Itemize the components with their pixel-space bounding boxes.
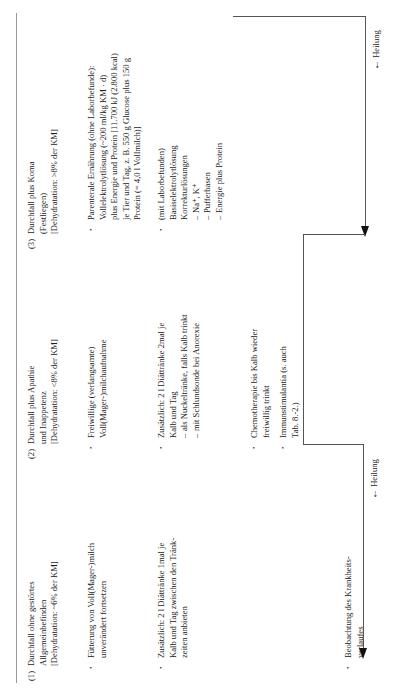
c1-b2-line-1: Zusätzlich: 2 l Diättränke 1mal je <box>156 451 168 658</box>
column-2-heading-line-1: Durchfall plus Apathie <box>26 261 38 444</box>
c2-b4-line-1: Immunstimulantia (s. auch <box>278 235 290 438</box>
c1-b1-line-2: unverändert fortsetzen <box>98 451 110 658</box>
dash-marker: – <box>191 213 203 220</box>
column-3-heading-line-1: Durchfall plus Koma <box>26 13 38 234</box>
c2-b3-line-2: freiwillig trinkt <box>261 235 273 438</box>
column-2-heading: (2) Durchfall plus Apathie und Inappeten… <box>26 261 61 459</box>
c2-b4-line-2: Tab. 8.-2.) <box>290 235 302 438</box>
c3-b1-line-2: Vollelektrolytlösung (~200 ml/kg KM · d) <box>98 0 110 220</box>
flow-line-left-vertical <box>303 234 365 235</box>
c3-b2-sub-1: – Na⁺, K⁺ <box>191 0 203 220</box>
flow-label-heilung-2-text: Heilung <box>369 459 379 487</box>
dash-marker: – <box>179 431 191 438</box>
column-1-heading-line-1: Durchfall ohne gestörtes <box>26 471 38 666</box>
column-2-bullet-2: • Zusätzlich: 2 l Diättränke 2mal je Kal… <box>156 235 202 449</box>
c3-b2-line-1: (mit Laborbefunden) <box>156 0 168 220</box>
flow-label-heilung-1-text: Heilung <box>371 30 381 58</box>
left-arrow-icon: ← <box>368 489 379 499</box>
bullet-marker: • <box>343 658 355 669</box>
column-3-heading-line-3: [Dehydratation: >8% der KM] <box>49 13 61 234</box>
dash-marker: – <box>214 213 226 220</box>
bullet-marker: • <box>86 438 98 449</box>
column-2-bullet-4: • Immunstimulantia (s. auch Tab. 8.-2.) <box>278 235 301 449</box>
column-2-number: (2) <box>26 444 61 459</box>
column-headings: (1) Durchfall ohne gestörtes Allgemeinbe… <box>26 13 61 681</box>
flow-label-heilung-2: ← Heilung <box>368 459 380 499</box>
c2-b2-sub-2: – mit Schlundsonde bei Anorexie <box>191 235 203 438</box>
c3-b2-sub-3-text: Energie plus Protein <box>214 143 226 213</box>
column-1-bullet-2: • Zusätzlich: 2 l Diättränke 1mal je Kal… <box>156 451 191 669</box>
dash-marker: – <box>202 213 214 220</box>
column-1-heading-line-3: [Dehydratation: ~6% der KM] <box>49 471 61 666</box>
c2-b3-line-1: Chemotherapie bis Kalb wieder <box>249 235 261 438</box>
c2-b2-line-2: Kalb und Tag <box>168 235 180 438</box>
column-1-heading-line-2: Allgemeinbefinden <box>38 471 50 666</box>
c1-b3-line-2: verlaufes <box>355 451 367 658</box>
bullet-marker: • <box>156 438 168 449</box>
column-2: (2) Durchfall plus Apathie und Inappeten… <box>26 249 61 459</box>
dash-marker: – <box>191 431 203 438</box>
flow-label-heilung-1: ← Heilung <box>370 30 382 70</box>
bullet-marker: • <box>278 438 290 449</box>
c1-b2-line-2: Kalb und Tag zwischen den Tränk- <box>168 451 180 658</box>
column-1: (1) Durchfall ohne gestörtes Allgemeinbe… <box>26 459 61 681</box>
flow-line-mid-vertical <box>303 444 363 445</box>
bullet-marker: • <box>86 220 98 231</box>
c2-b1-line-2: Voll(Mager-)milchaufnahme <box>98 235 110 438</box>
column-3-heading: (3) Durchfall plus Koma (Festliegen) [De… <box>26 13 61 249</box>
column-1-bullet-1: • Fütterung von Voll(Mager-)milch unverä… <box>86 451 109 669</box>
c3-b1-line-4: je Tier und Tag, z. B. 550 g Glucose plu… <box>121 0 133 220</box>
c2-b1-line-1: Freiwillige (verlangsamte) <box>86 235 98 438</box>
rotated-page-wrapper: (1) Durchfall ohne gestörtes Allgemeinbe… <box>0 0 398 695</box>
column-3-bullet-1: • Parenterale Ernährung (ohne Laborbefun… <box>86 0 144 231</box>
bullet-marker: • <box>249 438 261 449</box>
header-rule <box>16 13 17 683</box>
column-2-heading-line-3: [Dehydratation: <8% der KM] <box>49 261 61 444</box>
c3-b2-sub-2: – Pufferbasen <box>202 0 214 220</box>
column-1-heading: (1) Durchfall ohne gestörtes Allgemeinbe… <box>26 471 61 681</box>
document-page: (1) Durchfall ohne gestörtes Allgemeinbe… <box>0 0 398 695</box>
column-2-heading-line-2: und Inappetenz <box>38 261 50 444</box>
flow-line-left-horizontal <box>303 234 304 445</box>
c3-b1-line-3: plus Energie und Protein [11.700 kJ (2.8… <box>109 0 121 220</box>
c3-b1-line-5: Protein (= 4,0 l Vollmilch)] <box>132 0 144 220</box>
bullet-marker: • <box>156 220 168 231</box>
column-3-heading-line-2: (Festliegen) <box>38 13 50 234</box>
left-arrow-icon: ← <box>370 60 381 70</box>
column-2-bullet-3: • Chemotherapie bis Kalb wieder freiwill… <box>249 235 272 449</box>
bullet-marker: • <box>86 658 98 669</box>
column-1-number: (1) <box>26 666 61 681</box>
c3-b2-line-3: Korrekturlösungen <box>179 0 191 220</box>
c3-b2-sub-3: – Energie plus Protein <box>214 0 226 220</box>
c1-b1-line-1: Fütterung von Voll(Mager-)milch <box>86 451 98 658</box>
flow-line-right-horizontal <box>365 16 366 227</box>
c2-b2-line-1: Zusätzlich: 2 l Diättränke 2mal je <box>156 235 168 438</box>
column-3: (3) Durchfall plus Koma (Festliegen) [De… <box>26 13 61 249</box>
flow-arrowhead-left <box>359 648 367 659</box>
column-2-bullet-1: • Freiwillige (verlangsamte) Voll(Mager-… <box>86 235 109 449</box>
c3-b2-line-2: Basiselektrolytlösung <box>168 0 180 220</box>
c3-b2-sub-1-text: Na⁺, K⁺ <box>191 183 203 213</box>
bullet-marker: • <box>156 658 168 669</box>
c2-b2-sub-1: – als Nuckeltränke, falls Kalb trinkt <box>179 235 191 438</box>
c1-b3-line-1: Beobachtung des Krankheits- <box>343 451 355 658</box>
c2-b2-sub-2-text: mit Schlundsonde bei Anorexie <box>191 323 203 431</box>
c1-b2-line-3: zeiten anbieten <box>179 451 191 658</box>
c2-b2-sub-1-text: als Nuckeltränke, falls Kalb trinkt <box>179 314 191 431</box>
column-3-bullet-2: • (mit Laborbefunden) Basiselektrolytlös… <box>156 0 226 231</box>
flow-line-bottom-horizontal <box>363 444 364 649</box>
c3-b2-sub-2-text: Pufferbasen <box>202 172 214 213</box>
column-3-number: (3) <box>26 234 61 249</box>
c3-b1-line-1: Parenterale Ernährung (ohne Laborbefunde… <box>86 0 98 220</box>
flow-line-right-vertical <box>233 16 365 17</box>
flow-arrowhead-right <box>361 226 369 237</box>
